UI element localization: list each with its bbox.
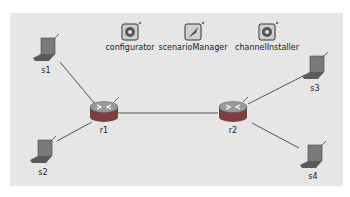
laptop-s2-icon[interactable] xyxy=(30,136,56,163)
node-label-r2: r2 xyxy=(229,126,237,135)
scenario-manager-label: scenarioManager xyxy=(159,43,228,52)
link-s2-r1[interactable] xyxy=(57,122,92,141)
link-s1-r1[interactable] xyxy=(60,62,95,104)
node-label-r1: r1 xyxy=(100,126,108,135)
node-label-s3: s3 xyxy=(310,84,319,93)
laptop-s3-icon[interactable] xyxy=(302,52,328,79)
configurator-label: configurator xyxy=(105,43,154,52)
laptop-s1-icon[interactable] xyxy=(33,34,59,61)
laptop-s4-icon[interactable] xyxy=(300,141,326,168)
scenario-manager-quill-icon[interactable] xyxy=(185,22,204,40)
node-label-s1: s1 xyxy=(41,66,50,75)
router-r2-icon[interactable] xyxy=(219,97,248,122)
router-r1-icon[interactable] xyxy=(90,97,119,122)
configurator-gear-icon[interactable] xyxy=(122,22,141,40)
link-r2-s3[interactable] xyxy=(248,76,303,104)
channel-installer-label: channelInstaller xyxy=(235,43,299,52)
node-label-s2: s2 xyxy=(38,168,47,177)
links-layer xyxy=(0,0,350,197)
node-label-s4: s4 xyxy=(308,172,317,181)
channel-installer-gear-icon[interactable] xyxy=(259,22,278,40)
link-r2-s4[interactable] xyxy=(252,123,299,148)
